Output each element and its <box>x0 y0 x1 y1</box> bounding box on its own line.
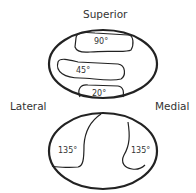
label-135-lateral: 135° <box>58 146 77 155</box>
diagram: 90° 45° 20° 135° 135° <box>0 0 196 193</box>
region-135-lateral <box>52 114 101 167</box>
label-90: 90° <box>94 37 108 46</box>
label-45: 45° <box>76 66 90 75</box>
region-45 <box>57 59 124 80</box>
label-135-medial: 135° <box>131 146 150 155</box>
label-20: 20° <box>92 89 106 98</box>
